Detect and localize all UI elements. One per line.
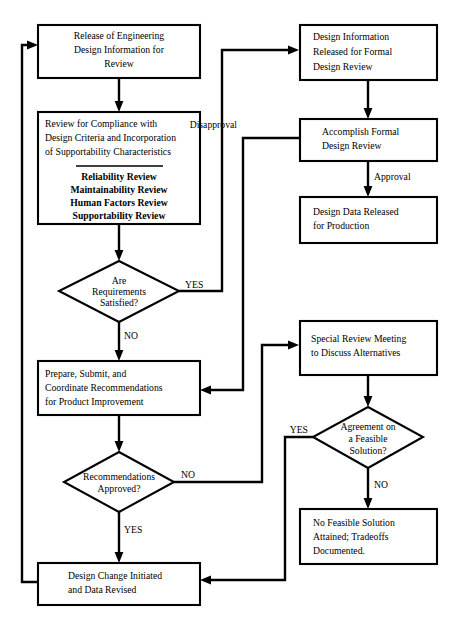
node-agreement-feasible[interactable]: Agreement on a Feasible Solution? xyxy=(313,407,423,468)
node-recommendations-approved-line-0: Recommendations xyxy=(83,471,155,482)
node-special-review-meeting-line-0: Special Review Meeting xyxy=(311,333,406,344)
edge-special-review-to-agreement xyxy=(364,375,373,407)
node-no-feasible-solution-line-1: Attained; Tradeoffs xyxy=(313,531,389,542)
edge-agreement-no-to-no-feasible xyxy=(364,468,373,509)
node-prepare-submit-line-1: Coordinate Recommendations xyxy=(45,382,163,393)
edge-recommendations-yes-to-design-change xyxy=(115,512,124,563)
node-release-engineering-line-0: Release of Engineering xyxy=(74,30,165,41)
edge-label-recommendations-no: NO xyxy=(181,469,195,480)
node-special-review-meeting-line-1: to Discuss Alternatives xyxy=(311,347,401,358)
edge-label-approval: Approval xyxy=(374,171,411,182)
node-review-compliance[interactable]: Review for Compliance with Design Criter… xyxy=(38,112,200,224)
node-prepare-submit[interactable]: Prepare, Submit, and Coordinate Recommen… xyxy=(38,361,200,415)
node-agreement-feasible-line-2: Solution? xyxy=(349,445,386,456)
node-review-compliance-line-0: Review for Compliance with xyxy=(45,118,157,129)
node-no-feasible-solution-line-2: Documented. xyxy=(313,545,365,556)
edge-release-to-review xyxy=(115,78,124,112)
node-special-review-meeting[interactable]: Special Review Meeting to Discuss Altern… xyxy=(300,321,437,375)
node-requirements-satisfied[interactable]: Are Requirements Satisfied? xyxy=(59,261,179,322)
node-review-compliance-sub-0: Reliability Review xyxy=(81,171,157,182)
node-no-feasible-solution[interactable]: No Feasible Solution Attained; Tradeoffs… xyxy=(300,509,437,564)
edge-disapproval-to-prepare xyxy=(200,138,300,394)
node-review-compliance-line-1: Design Criteria and Incorporation xyxy=(45,132,176,143)
edge-label-disapproval: Disapproval xyxy=(190,119,238,130)
node-review-compliance-sub-2: Human Factors Review xyxy=(70,197,167,208)
edge-review-to-requirements xyxy=(115,224,124,261)
edge-label-agreement-no: NO xyxy=(374,479,388,490)
node-review-compliance-sub-1: Maintainability Review xyxy=(70,184,167,195)
node-release-engineering-line-1: Design Information for xyxy=(74,44,165,55)
node-design-information-released-line-1: Released for Formal xyxy=(313,46,392,57)
node-design-data-released-line-1: for Production xyxy=(313,220,369,231)
node-design-change-initiated[interactable]: Design Change Initiated and Data Revised xyxy=(38,563,200,605)
node-accomplish-formal-review[interactable]: Accomplish Formal Design Review xyxy=(300,119,437,161)
node-prepare-submit-line-2: for Product Improvement xyxy=(45,396,144,407)
node-design-information-released[interactable]: Design Information Released for Formal D… xyxy=(300,25,437,80)
flowchart-container: Release of Engineering Design Informatio… xyxy=(0,0,455,630)
node-prepare-submit-line-0: Prepare, Submit, and xyxy=(45,368,126,379)
flowchart-canvas: Release of Engineering Design Informatio… xyxy=(0,0,455,630)
node-agreement-feasible-line-0: Agreement on xyxy=(340,421,395,432)
edge-accomplish-to-design-data xyxy=(364,161,373,197)
node-review-compliance-line-2: of Supportability Characteristics xyxy=(45,146,171,157)
node-design-change-initiated-line-1: and Data Revised xyxy=(68,584,136,595)
node-agreement-feasible-line-1: a Feasible xyxy=(348,433,387,444)
node-review-compliance-sub-3: Supportability Review xyxy=(73,210,166,221)
node-requirements-satisfied-line-2: Satisfied? xyxy=(100,297,138,308)
edge-label-requirements-yes: YES xyxy=(185,279,203,290)
node-requirements-satisfied-line-0: Are xyxy=(112,275,127,286)
node-design-information-released-line-2: Design Review xyxy=(313,61,372,72)
edge-requirements-no-to-prepare xyxy=(115,322,124,361)
node-design-data-released-line-0: Design Data Released xyxy=(313,206,399,217)
node-release-engineering[interactable]: Release of Engineering Design Informatio… xyxy=(38,25,200,78)
edge-label-recommendations-yes: YES xyxy=(124,524,142,535)
edge-label-requirements-no: NO xyxy=(124,330,138,341)
node-no-feasible-solution-line-0: No Feasible Solution xyxy=(313,517,395,528)
node-recommendations-approved[interactable]: Recommendations Approved? xyxy=(64,452,174,512)
edge-design-info-to-accomplish xyxy=(364,80,373,119)
node-accomplish-formal-review-line-0: Accomplish Formal xyxy=(322,126,400,137)
edge-design-change-feedback-to-release xyxy=(22,41,38,582)
node-recommendations-approved-line-1: Approved? xyxy=(97,483,140,494)
node-release-engineering-line-2: Review xyxy=(104,58,134,69)
node-design-change-initiated-line-0: Design Change Initiated xyxy=(68,570,162,581)
node-design-information-released-line-0: Design Information xyxy=(313,31,389,42)
node-accomplish-formal-review-line-1: Design Review xyxy=(322,140,381,151)
edge-prepare-to-recommendations xyxy=(115,415,124,452)
node-requirements-satisfied-line-1: Requirements xyxy=(92,286,146,297)
edge-agreement-yes-to-design-change xyxy=(200,437,313,584)
edge-label-agreement-yes: YES xyxy=(290,424,308,435)
node-design-data-released[interactable]: Design Data Released for Production xyxy=(300,197,437,243)
